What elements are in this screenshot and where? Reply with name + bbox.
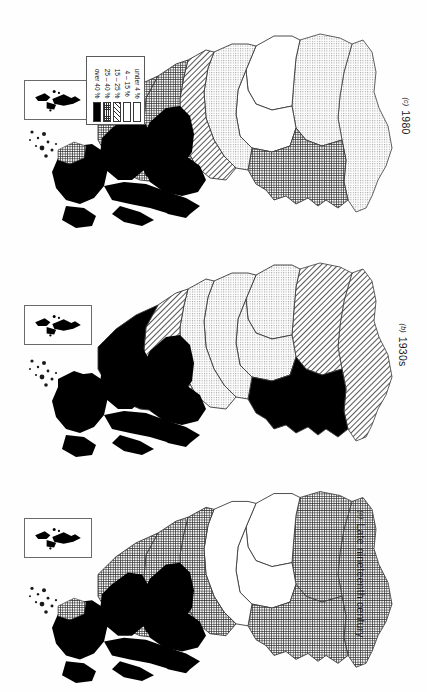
legend-swatch-under-4: [133, 102, 141, 122]
panel-caption-text-late-19th-century: Late nineteenth century: [355, 523, 367, 637]
legend-label-4-15: 4 – 15 %: [122, 79, 131, 88]
legend-swatch-4-15: [123, 102, 131, 122]
legend-item-under-4[interactable]: under 4 %: [132, 79, 141, 122]
legend-items: under 4 % 4 – 15 % 15 – 25 % 25 – 40 % o…: [87, 57, 146, 126]
small-islands: [29, 359, 57, 386]
legend-item-over-40[interactable]: over 40 %: [92, 79, 101, 122]
map-panel-1980[interactable]: (c)1980: [0, 0, 427, 231]
legend-label-15-25: 15 – 25 %: [112, 79, 121, 88]
panel-caption-text-1930s: 1930s: [398, 336, 410, 366]
small-islands: [29, 130, 57, 157]
figure-page: (c)1980: [0, 0, 427, 692]
panel-caption-text-1980: 1980: [401, 110, 413, 134]
shetland-inset-graphic: [25, 306, 91, 344]
legend-label-25-40: 25 – 40 %: [102, 79, 111, 88]
shetland-inset-1980[interactable]: [24, 80, 92, 120]
shetland-inset-graphic: [25, 519, 91, 557]
legend-swatch-over-40: [93, 102, 101, 122]
panel-id-1930s: (b): [401, 323, 408, 332]
map-panel-late-19th-century[interactable]: (a)Late nineteenth century: [0, 458, 427, 689]
legend-item-25-40[interactable]: 25 – 40 %: [102, 79, 111, 122]
map-panel-1930s[interactable]: (b)1930s: [0, 229, 427, 460]
shetland-inset-late-19th-century[interactable]: [24, 518, 92, 558]
panel-id-1980: (c): [404, 97, 411, 106]
legend-swatch-25-40: [103, 102, 111, 122]
shetland-inset-graphic: [25, 81, 91, 119]
legend-swatch-15-25: [113, 102, 121, 122]
legend-label-over-40: over 40 %: [92, 79, 101, 88]
small-islands: [29, 587, 57, 614]
panel-caption-1980: (c)1980: [401, 97, 413, 134]
map-legend[interactable]: under 4 % 4 – 15 % 15 – 25 % 25 – 40 % o…: [86, 56, 145, 125]
panel-caption-late-19th-century: (a)Late nineteenth century: [355, 510, 367, 638]
legend-item-15-25[interactable]: 15 – 25 %: [112, 79, 121, 122]
shetland-inset-1930s[interactable]: [24, 305, 92, 345]
panel-caption-1930s: (b)1930s: [398, 323, 410, 366]
panel-id-late-19th-century: (a): [358, 510, 365, 519]
legend-label-under-4: under 4 %: [132, 79, 141, 88]
legend-item-4-15[interactable]: 4 – 15 %: [122, 79, 131, 122]
